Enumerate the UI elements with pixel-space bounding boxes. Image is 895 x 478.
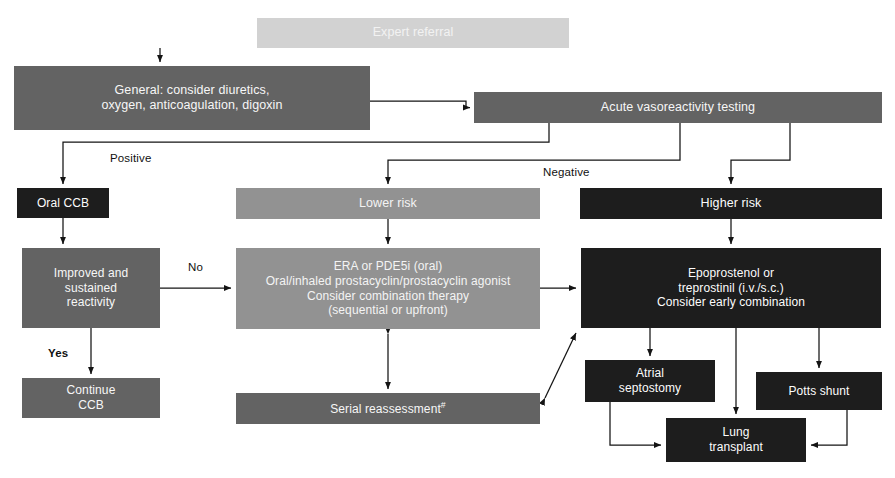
node-era-pde5i-regimen[interactable]: ERA or PDE5i (oral) Oral/inhaled prostac…: [236, 248, 540, 329]
node-label-serial-reassessment: Serial reassessment: [330, 402, 441, 416]
node-label-atrial-septostomy: Atrial septostomy: [585, 366, 715, 395]
edge-label-positive: Positive: [110, 152, 151, 164]
connector-serial-epoprostenol-double: [545, 333, 576, 398]
node-acute-vasoreactivity-testing[interactable]: Acute vasoreactivity testing: [474, 92, 882, 123]
node-oral-ccb[interactable]: Oral CCB: [17, 188, 109, 218]
connector-potts-to-lungtransplant: [811, 410, 847, 445]
node-lower-risk[interactable]: Lower risk: [236, 188, 540, 219]
node-label-higher-risk: Higher risk: [580, 196, 882, 211]
node-label-serial-reassessment-superscript: #: [441, 400, 446, 410]
node-continue-ccb[interactable]: Continue CCB: [22, 378, 160, 418]
node-improved-sustained-reactivity[interactable]: Improved and sustained reactivity: [22, 248, 160, 328]
node-label-acute-vasoreactivity-testing: Acute vasoreactivity testing: [474, 100, 882, 115]
connector-general-to-avt: [370, 101, 470, 108]
connector-septostomy-to-lungtransplant: [610, 402, 661, 445]
node-label-expert-referral: Expert referral: [257, 25, 569, 40]
node-label-epoprostenol-treprostinil: Epoprostenol or treprostinil (i.v./s.c.)…: [581, 266, 881, 310]
node-label-lung-transplant: Lung transplant: [666, 425, 806, 454]
edge-label-yes: Yes: [48, 347, 68, 359]
node-label-improved-sustained-reactivity: Improved and sustained reactivity: [22, 266, 160, 310]
node-label-era-pde5i-regimen: ERA or PDE5i (oral) Oral/inhaled prostac…: [236, 259, 540, 318]
connector-avt-to-higherrisk: [731, 123, 790, 184]
node-label-continue-ccb: Continue CCB: [22, 383, 160, 412]
node-higher-risk[interactable]: Higher risk: [580, 188, 882, 219]
node-serial-reassessment[interactable]: Serial reassessment#: [236, 393, 540, 424]
node-epoprostenol-treprostinil[interactable]: Epoprostenol or treprostinil (i.v./s.c.)…: [581, 248, 881, 328]
node-label-potts-shunt: Potts shunt: [756, 384, 882, 399]
node-potts-shunt[interactable]: Potts shunt: [756, 372, 882, 410]
flowchart-canvas: Expert referral General: consider diuret…: [0, 0, 895, 478]
connector-avt-to-lowerrisk: [388, 123, 680, 184]
edge-label-no: No: [188, 261, 203, 273]
node-expert-referral[interactable]: Expert referral: [257, 18, 569, 48]
node-label-oral-ccb: Oral CCB: [17, 196, 109, 211]
node-label-serial-reassessment-wrap: Serial reassessment#: [236, 400, 540, 417]
node-lung-transplant[interactable]: Lung transplant: [666, 418, 806, 462]
node-label-general-measures: General: consider diuretics, oxygen, ant…: [14, 83, 370, 114]
node-general-measures[interactable]: General: consider diuretics, oxygen, ant…: [14, 66, 370, 130]
edge-label-negative: Negative: [543, 166, 590, 178]
node-label-lower-risk: Lower risk: [236, 196, 540, 211]
node-atrial-septostomy[interactable]: Atrial septostomy: [585, 360, 715, 402]
